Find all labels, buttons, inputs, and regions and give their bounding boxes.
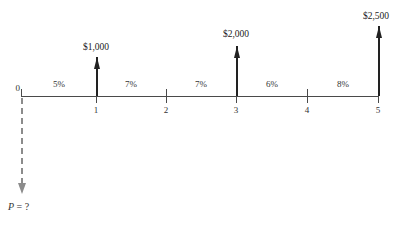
present-value-arrow xyxy=(21,98,23,196)
interest-rate-label-segment-1: 5% xyxy=(38,80,80,89)
arrow-up-icon xyxy=(376,26,382,38)
interest-rate-label-segment-2: 7% xyxy=(110,80,152,89)
timeline-origin-label: 0 xyxy=(0,84,20,93)
present-value-arrow-stem xyxy=(21,98,23,184)
cash-flow-amount-label-period-5: $2,500 xyxy=(348,12,404,22)
interest-rate-label-segment-5: 8% xyxy=(322,80,364,89)
period-label-2: 2 xyxy=(156,106,176,115)
period-label-3: 3 xyxy=(226,106,246,115)
cash-flow-diagram: 0 1 2 3 4 5 5% 7% 7% 6% 8% $1,000 $2,000… xyxy=(0,0,405,225)
tick-mark-4 xyxy=(307,89,308,103)
timeline-axis xyxy=(21,96,379,97)
interest-rate-label-segment-3: 7% xyxy=(180,80,222,89)
tick-mark-0 xyxy=(21,89,22,96)
cash-flow-arrow-period-5 xyxy=(378,26,380,96)
cash-flow-arrow-period-3 xyxy=(236,46,238,96)
present-value-value: ? xyxy=(25,201,29,212)
cash-flow-arrow-period-1 xyxy=(96,57,98,96)
present-value-equals: = xyxy=(17,201,23,212)
cash-flow-amount-label-period-3: $2,000 xyxy=(206,30,266,40)
period-label-4: 4 xyxy=(297,106,317,115)
interest-rate-label-segment-4: 6% xyxy=(251,80,293,89)
arrow-down-icon xyxy=(18,183,26,194)
period-label-5: 5 xyxy=(368,106,388,115)
cash-flow-amount-label-period-1: $1,000 xyxy=(66,43,126,53)
arrow-up-icon xyxy=(234,46,240,58)
arrow-up-icon xyxy=(94,57,100,69)
present-value-label: P = ? xyxy=(8,202,29,212)
period-label-1: 1 xyxy=(86,106,106,115)
tick-mark-2 xyxy=(166,89,167,103)
